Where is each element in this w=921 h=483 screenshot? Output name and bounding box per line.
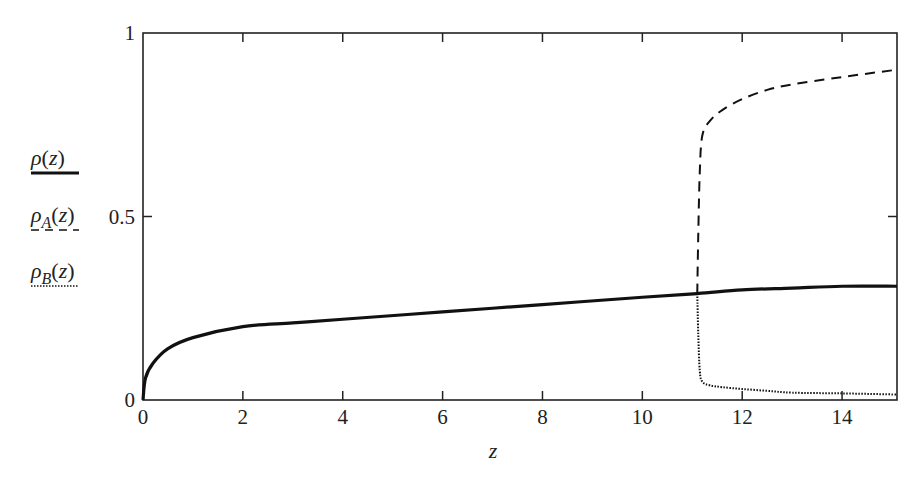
x-tick-label: 4: [337, 405, 348, 429]
legend-item: ρB(z): [30, 258, 79, 287]
x-tick-label: 0: [138, 405, 149, 429]
y-tick-label: 1: [125, 21, 136, 45]
y-tick-label: 0.5: [109, 205, 135, 229]
series-group: [143, 70, 897, 400]
legend-label: ρ(z): [30, 145, 65, 170]
series-rho-a: [697, 70, 897, 294]
axis-ticks: [143, 33, 897, 400]
legend: ρ(z)ρA(z)ρB(z): [30, 145, 79, 287]
x-tick-label: 2: [238, 405, 249, 429]
chart: 0246810121400.51 z ρ(z)ρA(z)ρB(z): [0, 0, 921, 483]
x-tick-label: 10: [632, 405, 653, 429]
x-tick-label: 8: [537, 405, 548, 429]
series-rho: [143, 286, 897, 400]
legend-label: ρA(z): [30, 202, 75, 231]
legend-item: ρ(z): [30, 145, 79, 173]
x-axis-title: z: [488, 438, 498, 463]
x-tick-label: 6: [437, 405, 448, 429]
legend-item: ρA(z): [30, 202, 79, 231]
tick-labels: 0246810121400.51: [109, 21, 853, 429]
plot-frame: [143, 33, 897, 400]
y-tick-label: 0: [125, 388, 136, 412]
x-tick-label: 12: [732, 405, 753, 429]
series-rho-b: [697, 294, 897, 395]
x-tick-label: 14: [832, 405, 854, 429]
legend-label: ρB(z): [30, 258, 75, 287]
